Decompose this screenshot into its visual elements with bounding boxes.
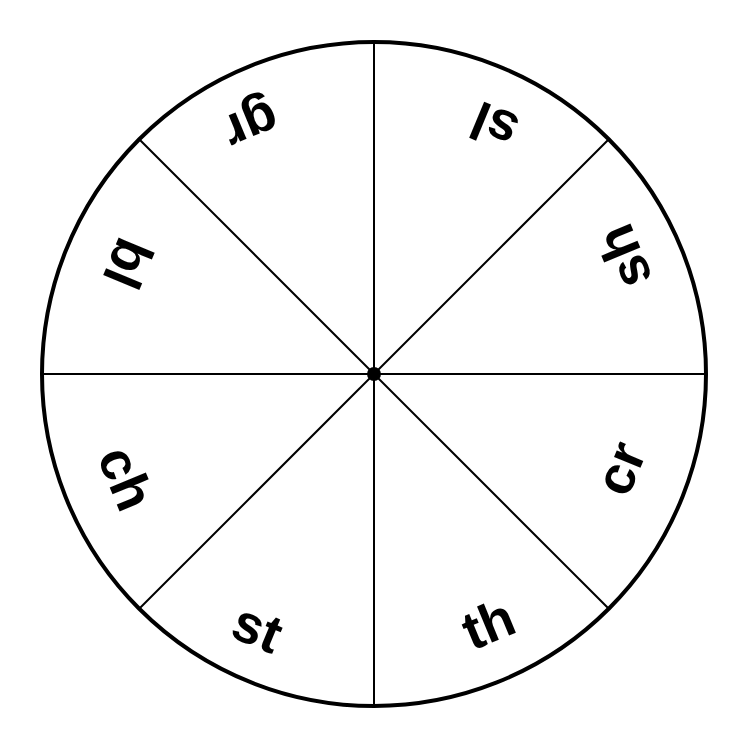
blend-wheel: gr sl sh cr th st ch bl xyxy=(0,0,747,739)
center-hub xyxy=(367,367,381,381)
